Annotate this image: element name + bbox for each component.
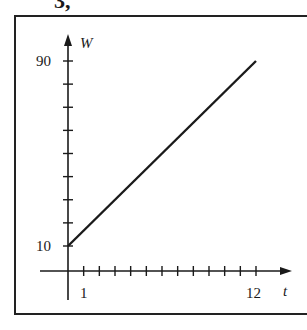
axes xyxy=(40,34,292,300)
data-line xyxy=(68,61,256,246)
x-tick-label-1: 1 xyxy=(80,285,88,301)
line-chart: W t 90 10 1 12 xyxy=(0,0,307,330)
x-axis-label: t xyxy=(283,283,288,299)
y-tick-label-10: 10 xyxy=(36,238,51,254)
y-axis-label: W xyxy=(80,35,94,51)
x-axis-arrow-icon xyxy=(280,267,292,275)
x-tick-label-12: 12 xyxy=(246,285,261,301)
y-tick-label-90: 90 xyxy=(36,53,51,69)
y-axis-arrow-icon xyxy=(64,34,72,46)
